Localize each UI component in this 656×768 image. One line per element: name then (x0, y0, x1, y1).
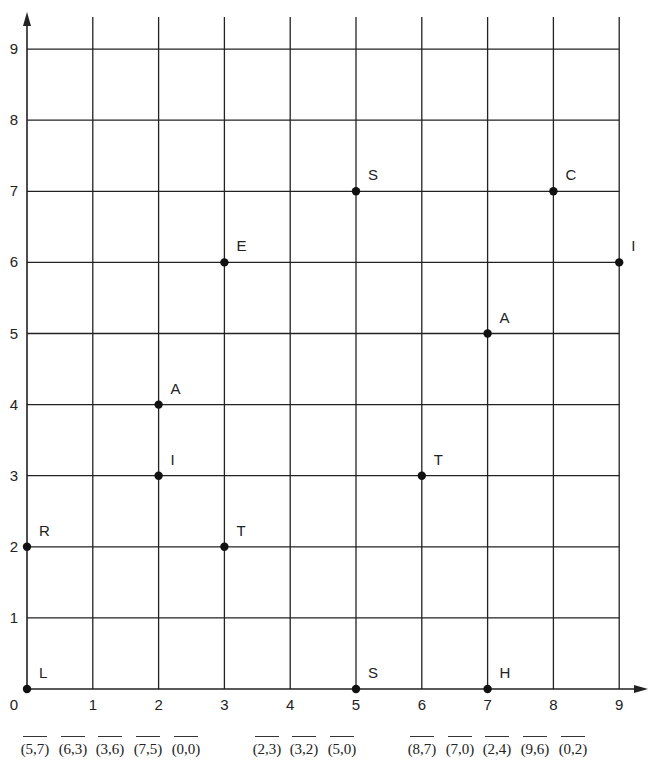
blank-line[interactable] (255, 736, 279, 737)
tick-labels: 0123456789123456789 (10, 40, 624, 713)
plotted-points: LRIATESSTAHCI (23, 166, 636, 693)
answer-blank[interactable]: (3,2) (284, 736, 324, 758)
blank-coordinate: (6,3) (53, 741, 93, 758)
blank-coordinate: (0,2) (553, 741, 593, 758)
blank-line[interactable] (410, 736, 434, 737)
blank-line[interactable] (292, 736, 316, 737)
blank-line[interactable] (61, 736, 85, 737)
x-tick-label: 3 (220, 696, 228, 713)
blank-line[interactable] (136, 736, 160, 737)
y-tick-label: 9 (10, 40, 18, 57)
answer-blank[interactable]: (7,0) (440, 736, 480, 758)
y-tick-label: 7 (10, 182, 18, 199)
point-label: S (368, 664, 378, 681)
point-dot-icon (352, 685, 360, 693)
x-tick-label: 1 (89, 696, 97, 713)
answer-blank[interactable]: (0,0) (166, 736, 206, 758)
answer-blank[interactable]: (5,0) (322, 736, 362, 758)
blank-coordinate: (0,0) (166, 741, 206, 758)
blank-coordinate: (3,6) (90, 741, 130, 758)
point-label: C (565, 166, 576, 183)
point-dot-icon (23, 685, 31, 693)
blank-coordinate: (7,0) (440, 741, 480, 758)
y-axis-arrow-icon (23, 12, 31, 26)
blank-coordinate: (9,6) (515, 741, 555, 758)
point-label: R (39, 522, 50, 539)
answer-blank[interactable]: (5,7) (15, 736, 55, 758)
y-tick-label: 2 (10, 538, 18, 555)
x-tick-label: 8 (549, 696, 557, 713)
answer-blank[interactable]: (8,7) (402, 736, 442, 758)
blank-line[interactable] (330, 736, 354, 737)
point-label: T (236, 522, 245, 539)
point-dot-icon (352, 187, 360, 195)
answer-blank[interactable]: (7,5) (128, 736, 168, 758)
answer-blank[interactable]: (9,6) (515, 736, 555, 758)
blank-coordinate: (2,3) (247, 741, 287, 758)
coordinate-grid: 0123456789123456789 LRIATESSTAHCI (0, 0, 656, 730)
x-tick-label: 5 (352, 696, 360, 713)
blank-line[interactable] (561, 736, 585, 737)
y-tick-label: 6 (10, 253, 18, 270)
blank-line[interactable] (448, 736, 472, 737)
point-dot-icon (418, 472, 426, 480)
answer-blank[interactable]: (0,2) (553, 736, 593, 758)
point-label: I (631, 237, 635, 254)
blank-line[interactable] (485, 736, 509, 737)
blank-line[interactable] (174, 736, 198, 737)
answer-blank[interactable]: (3,6) (90, 736, 130, 758)
y-tick-label: 3 (10, 467, 18, 484)
y-tick-label: 1 (10, 609, 18, 626)
blank-line[interactable] (23, 736, 47, 737)
point-dot-icon (615, 258, 623, 266)
blank-coordinate: (2,4) (477, 741, 517, 758)
axes (23, 12, 648, 693)
point-label: L (39, 664, 47, 681)
blank-coordinate: (8,7) (402, 741, 442, 758)
grid-lines (27, 17, 619, 689)
point-dot-icon (483, 329, 491, 337)
point-label: A (500, 309, 510, 326)
blank-coordinate: (3,2) (284, 741, 324, 758)
blank-line[interactable] (523, 736, 547, 737)
x-tick-label: 0 (10, 696, 18, 713)
blank-coordinate: (7,5) (128, 741, 168, 758)
blank-coordinate: (5,7) (15, 741, 55, 758)
point-label: T (434, 451, 443, 468)
point-dot-icon (483, 685, 491, 693)
point-dot-icon (23, 543, 31, 551)
point-dot-icon (549, 187, 557, 195)
answer-blank[interactable]: (6,3) (53, 736, 93, 758)
y-tick-label: 5 (10, 325, 18, 342)
point-label: S (368, 166, 378, 183)
blank-coordinate: (5,0) (322, 741, 362, 758)
point-i: I (615, 237, 635, 266)
y-tick-label: 4 (10, 396, 18, 413)
point-dot-icon (154, 472, 162, 480)
x-tick-label: 4 (286, 696, 294, 713)
point-label: H (500, 664, 511, 681)
blank-line[interactable] (98, 736, 122, 737)
point-label: E (236, 237, 246, 254)
y-tick-label: 8 (10, 111, 18, 128)
x-tick-label: 7 (483, 696, 491, 713)
answer-blank[interactable]: (2,4) (477, 736, 517, 758)
x-tick-label: 2 (154, 696, 162, 713)
x-axis-arrow-icon (634, 685, 648, 693)
x-tick-label: 6 (418, 696, 426, 713)
point-dot-icon (154, 400, 162, 408)
answer-blanks: (5,7)(6,3)(3,6)(7,5)(0,0)(2,3)(3,2)(5,0)… (0, 736, 656, 768)
x-tick-label: 9 (615, 696, 623, 713)
point-dot-icon (220, 543, 228, 551)
answer-blank[interactable]: (2,3) (247, 736, 287, 758)
point-label: I (171, 451, 175, 468)
point-label: A (171, 380, 181, 397)
point-dot-icon (220, 258, 228, 266)
